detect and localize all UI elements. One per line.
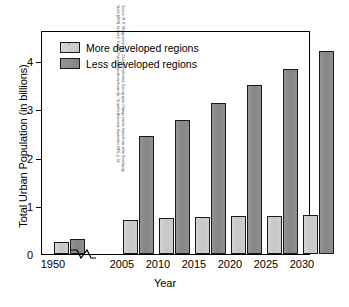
bar-2015-more-developed (195, 217, 210, 254)
bar-group-2030 (303, 32, 334, 254)
y-tick-label-2: 2 (20, 154, 33, 165)
bar-2015-less-developed (211, 103, 226, 254)
bar-2005-less-developed (139, 136, 154, 254)
bar-group-2020 (231, 32, 262, 254)
bar-2020-more-developed (231, 216, 246, 254)
bar-groups (42, 32, 309, 254)
y-tick-label-1: 1 (20, 202, 33, 213)
chart-figure: Total Urban Population (in billions) 4 3… (0, 0, 349, 307)
bar-2005-more-developed (123, 220, 138, 254)
bar-2010-more-developed (159, 218, 174, 254)
source-line-1: Source: M. R. Montgomery et al., Cities … (120, 5, 125, 305)
plot-area: More developed regions Less developed re… (41, 31, 310, 255)
x-axis-title: Year (0, 277, 330, 289)
bar-2030-less-developed (319, 51, 334, 254)
source-line-2: World (2003). In Joel E. Cohen, "Human P… (115, 5, 120, 305)
bar-group-2015 (195, 32, 226, 254)
y-tick-label-4: 4 (20, 57, 33, 68)
x-tick-label-1950: 1950 (31, 258, 75, 270)
bar-group-1950 (54, 32, 85, 254)
bar-2010-less-developed (175, 120, 190, 254)
bar-2020-less-developed (247, 85, 262, 254)
bar-2025-more-developed (267, 216, 282, 254)
bar-group-2005 (123, 32, 154, 254)
bar-2025-less-developed (283, 69, 298, 254)
bar-group-2010 (159, 32, 190, 254)
bar-2030-more-developed (303, 215, 318, 254)
x-tick-label-2030: 2030 (280, 258, 324, 270)
bar-group-2025 (267, 32, 298, 254)
source-caption: Source: M. R. Montgomery et al., Cities … (115, 5, 125, 305)
y-tick-label-3: 3 (20, 105, 33, 116)
bar-1950-more-developed (54, 242, 69, 254)
